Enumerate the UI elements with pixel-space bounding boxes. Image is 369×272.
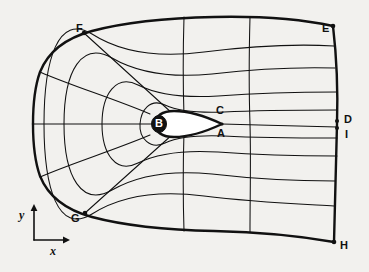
point-label-D: D (344, 114, 352, 125)
figure-root: F E C A B D I G H y x (0, 0, 369, 272)
radial-line-lower-mid (40, 135, 150, 177)
node-marker-D (335, 119, 339, 123)
node-marker-H (332, 240, 337, 245)
node-marker-I (335, 126, 339, 130)
boundary-node-markers (82, 24, 339, 245)
axis-label-x: x (50, 245, 56, 257)
point-label-B: B (155, 118, 163, 129)
point-label-C: C (216, 105, 224, 116)
axis-x-arrowhead-icon (63, 237, 70, 244)
axis-indicator (34, 208, 66, 240)
point-label-F: F (76, 23, 83, 34)
outflow-boundary-right (333, 26, 337, 242)
point-label-H: H (340, 240, 348, 251)
point-label-E: E (322, 23, 329, 34)
node-marker-E (331, 24, 336, 29)
mesh-diagram-svg (0, 0, 369, 272)
wake-line-path (222, 124, 337, 127)
point-label-G: G (71, 213, 80, 224)
radial-line-G (85, 134, 173, 213)
point-label-I: I (345, 129, 348, 140)
axis-label-y: y (19, 209, 24, 221)
trailing-edge-point (220, 122, 223, 125)
point-label-A: A (217, 128, 225, 139)
axis-arrowheads (31, 204, 70, 243)
node-marker-G (83, 211, 88, 216)
wake-cut-line (222, 124, 337, 127)
axis-y-arrowhead-icon (31, 204, 38, 211)
